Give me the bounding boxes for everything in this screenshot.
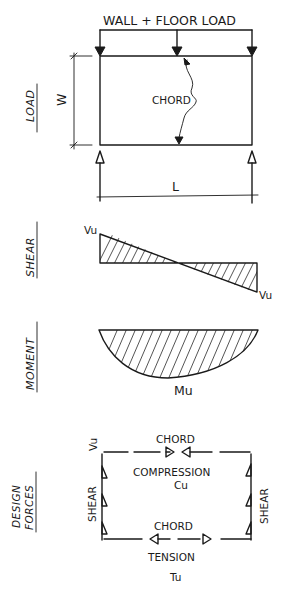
arrow-down-icon (247, 47, 257, 56)
arrow-up-icon (184, 58, 190, 65)
shear-label-text: SHEAR (24, 237, 37, 277)
arrow-left-icon (182, 447, 190, 457)
right-edge-shear: SHEAR (246, 454, 270, 540)
load-title: WALL + FLOOR LOAD (103, 13, 236, 28)
left-edge-shear: SHEAR (86, 454, 107, 540)
arrow-down-icon (172, 47, 182, 56)
arrow-down-icon (175, 137, 183, 144)
diaphragm-diagram: LOAD WALL + FLOOR LOAD W (0, 0, 288, 598)
load-side-label: LOAD (24, 84, 37, 132)
top-chord-label: CHORD (156, 433, 195, 445)
moment-panel: MOMENT (24, 322, 263, 398)
half-arrow-up-icon (246, 522, 251, 534)
forces-label-text: FORCES (23, 485, 35, 530)
arrow-down-icon (95, 47, 105, 56)
shear-diagram: Vu Vu (84, 224, 272, 301)
bottom-chord: CHORD TENSION Tu (104, 520, 251, 583)
half-arrow-up-icon (246, 464, 251, 476)
moment-hatch (95, 326, 263, 382)
design-forces-side-label: DESIGN FORCES (10, 472, 36, 532)
support-triangle-icon (248, 151, 256, 163)
moment-max-value: Mu (174, 383, 193, 398)
support-triangle-icon (96, 151, 104, 163)
shear-right-value: Vu (259, 289, 272, 301)
moment-diagram: Mu (95, 326, 263, 398)
half-arrow-up-icon (102, 494, 107, 506)
width-dimension: W (54, 53, 92, 149)
bottom-chord-label: CHORD (154, 520, 193, 532)
shear-outline (100, 234, 257, 292)
tension-label: TENSION (147, 551, 195, 563)
design-forces-panel: DESIGN FORCES Vu CHORD COMPRESSION Cu SH… (10, 433, 270, 583)
compression-symbol: Cu (174, 479, 188, 491)
design-label-text: DESIGN (10, 485, 22, 528)
arrow-left-icon (150, 534, 158, 544)
shear-hatch-right (180, 258, 264, 298)
shear-panel: SHEAR (24, 222, 272, 301)
half-arrow-up-icon (102, 466, 107, 478)
top-chord: CHORD COMPRESSION Cu (104, 433, 250, 491)
length-label: L (172, 179, 179, 194)
left-shear-label: SHEAR (86, 486, 98, 522)
chord-label: CHORD (152, 94, 191, 106)
half-arrow-up-icon (246, 494, 251, 506)
length-dimension: L (97, 179, 258, 197)
load-label-text: LOAD (24, 90, 37, 122)
tension-symbol: Tu (169, 571, 181, 583)
compression-label: COMPRESSION (133, 466, 210, 478)
moment-label-text: MOMENT (24, 337, 37, 390)
shear-left-value: Vu (84, 224, 97, 236)
half-arrow-up-icon (102, 522, 107, 534)
chord-callout: CHORD (152, 58, 196, 144)
shear-side-label: SHEAR (24, 222, 37, 278)
width-label: W (54, 94, 69, 106)
load-arrows (95, 30, 257, 56)
corner-shear-label: Vu (87, 438, 99, 451)
load-panel: LOAD WALL + FLOOR LOAD W (24, 13, 258, 203)
moment-side-label: MOMENT (24, 322, 37, 392)
right-shear-label: SHEAR (258, 488, 270, 524)
arrow-right-icon (203, 534, 211, 544)
